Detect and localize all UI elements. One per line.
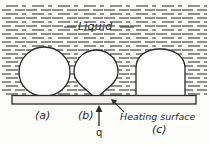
bubble-b-label: (b): [78, 110, 94, 121]
heat-flux-label: q: [96, 128, 102, 138]
bubble-a-label: (a): [35, 110, 50, 121]
heating-surface-label: Heating surface: [120, 112, 195, 122]
heat-flux-arrow: [96, 105, 103, 126]
heating-surface-plate: [12, 96, 196, 105]
bubble-a-oval: [19, 47, 70, 96]
liquid-label: Liquid: [78, 21, 112, 32]
bubble-c-label: (c): [152, 124, 167, 135]
bubble-formation-figure: Liquid (a) (b) (c) q Heating surface: [0, 0, 209, 145]
bubble-c-dome: [136, 49, 185, 96]
